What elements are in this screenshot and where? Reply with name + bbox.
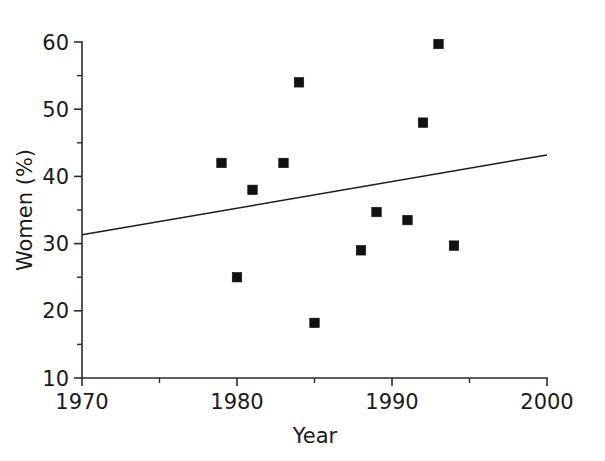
data-point-markers xyxy=(217,39,459,327)
scatter-chart-figure: 102030405060 1970198019902000 Year Women… xyxy=(0,0,605,461)
data-point-marker xyxy=(279,158,289,168)
x-axis-tick-marks xyxy=(82,378,547,386)
y-tick-label: 60 xyxy=(42,31,69,55)
data-point-marker xyxy=(434,39,444,49)
data-point-marker xyxy=(449,241,459,251)
x-tick-label: 1980 xyxy=(210,390,263,414)
trend-line xyxy=(82,155,547,235)
data-point-marker xyxy=(248,185,258,195)
data-point-marker xyxy=(372,207,382,217)
data-point-marker xyxy=(294,78,304,88)
y-tick-label: 20 xyxy=(42,299,69,323)
x-tick-label: 2000 xyxy=(520,390,573,414)
x-tick-label: 1990 xyxy=(365,390,418,414)
y-tick-label: 30 xyxy=(42,232,69,256)
data-point-marker xyxy=(356,246,366,256)
data-point-marker xyxy=(217,158,227,168)
chart-canvas: 102030405060 1970198019902000 Year Women… xyxy=(0,0,605,461)
data-point-marker xyxy=(418,118,428,128)
data-point-marker xyxy=(232,272,242,282)
y-tick-label: 40 xyxy=(42,165,69,189)
y-axis-tick-labels: 102030405060 xyxy=(42,31,69,391)
x-axis-tick-labels: 1970198019902000 xyxy=(55,390,573,414)
y-tick-label: 50 xyxy=(42,98,69,122)
y-axis-title: Women (%) xyxy=(13,149,37,271)
x-tick-label: 1970 xyxy=(55,390,108,414)
x-axis-title: Year xyxy=(292,424,338,448)
y-tick-label: 10 xyxy=(42,367,69,391)
y-axis-tick-marks xyxy=(74,42,82,378)
data-point-marker xyxy=(403,215,413,225)
data-point-marker xyxy=(310,318,320,328)
